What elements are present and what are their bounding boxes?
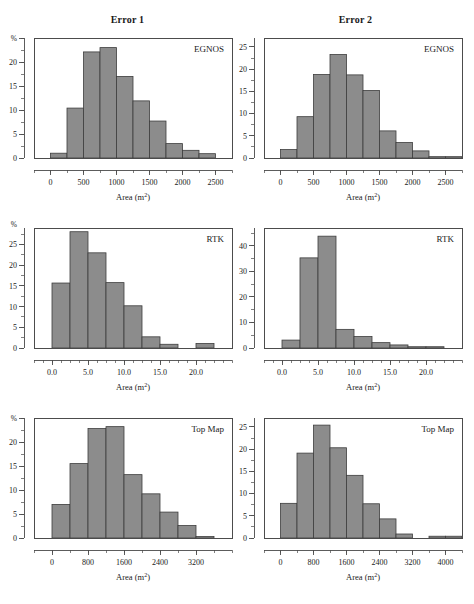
- y-tick-label: 10: [239, 109, 247, 118]
- x-tick-label: 2500: [438, 178, 454, 187]
- x-axis: 05001000150020002500: [264, 170, 462, 187]
- plot-frame: [264, 228, 462, 348]
- histogram-bar: [347, 75, 364, 158]
- histogram-bar: [178, 526, 196, 538]
- column-title-error-1: Error 1: [20, 14, 235, 25]
- x-tick-label: 0: [279, 178, 283, 187]
- histogram-bar: [160, 344, 178, 348]
- x-axis: 08001600240032004000: [264, 550, 462, 567]
- y-tick-label: 15: [239, 87, 247, 96]
- panel-label: Top Map: [191, 424, 224, 434]
- histogram-bar: [67, 108, 84, 158]
- y-tick-label: 15: [9, 282, 17, 291]
- histogram-bar: [363, 90, 380, 158]
- y-tick-label: 25: [239, 423, 247, 432]
- y-axis-percent-label: %: [11, 220, 17, 229]
- chart-svg: 0500100015002000250005101520%Area (m2)EG…: [0, 28, 244, 204]
- x-tick-label: 1500: [372, 178, 388, 187]
- y-axis: 010203040: [239, 228, 254, 353]
- histogram-bar: [196, 343, 214, 348]
- y-tick-label: 25: [9, 240, 17, 249]
- histogram-bar: [372, 343, 390, 348]
- bar-series: [52, 232, 214, 348]
- x-tick-label: 5.0: [83, 368, 93, 377]
- histogram-bar: [106, 283, 124, 348]
- panel-label: Top Map: [421, 424, 454, 434]
- y-tick-label: 10: [9, 106, 17, 115]
- x-tick-label: 2400: [372, 558, 388, 567]
- histogram-bar: [150, 121, 167, 158]
- x-axis-title: Area (m2): [346, 572, 380, 582]
- histogram-bar: [281, 503, 298, 538]
- y-tick-label: 0: [13, 344, 17, 353]
- histogram-bar: [124, 475, 142, 538]
- histogram-bar: [282, 340, 300, 348]
- bar-series: [281, 54, 463, 158]
- x-tick-label: 1500: [142, 178, 158, 187]
- x-tick-label: 0: [279, 558, 283, 567]
- y-tick-label: 40: [239, 242, 247, 251]
- y-tick-label: 30: [239, 267, 247, 276]
- x-tick-label: 5.0: [313, 368, 323, 377]
- panel-rtk-error1: 0.05.010.015.020.00510152025%Area (m2)RT…: [0, 218, 244, 394]
- histogram-bar: [347, 475, 364, 538]
- histogram-bar: [380, 131, 397, 158]
- x-axis-title: Area (m2): [116, 192, 150, 202]
- histogram-bar: [142, 494, 160, 538]
- x-tick-label: 2400: [152, 558, 168, 567]
- x-tick-label: 0.0: [277, 368, 287, 377]
- x-tick-label: 1000: [339, 178, 355, 187]
- x-axis-title: Area (m2): [116, 572, 150, 582]
- x-tick-label: 500: [308, 178, 320, 187]
- x-tick-label: 2500: [208, 178, 224, 187]
- x-tick-label: 15.0: [153, 368, 167, 377]
- panel-topmap-error1: 080016002400320005101520%Area (m2)Top Ma…: [0, 408, 244, 584]
- histogram-bar: [142, 337, 160, 348]
- histogram-bar: [396, 534, 413, 538]
- x-tick-label: 15.0: [383, 368, 397, 377]
- x-axis: 05001000150020002500: [34, 170, 232, 187]
- y-axis: 05101520%: [9, 414, 24, 543]
- histogram-bar: [88, 253, 106, 348]
- bar-series: [282, 236, 444, 348]
- histogram-bar: [314, 425, 331, 538]
- histogram-bar: [100, 48, 117, 158]
- x-tick-label: 10.0: [347, 368, 361, 377]
- x-tick-label: 2000: [405, 178, 421, 187]
- y-axis: 0510152025: [239, 38, 254, 163]
- histogram-bar: [380, 519, 397, 538]
- x-axis: 0800160024003200: [34, 550, 232, 567]
- histogram-bar: [52, 283, 70, 348]
- y-tick-label: 5: [243, 512, 247, 521]
- histogram-bar: [354, 337, 372, 348]
- histogram-bar: [363, 504, 380, 538]
- y-tick-label: 0: [243, 534, 247, 543]
- y-tick-label: 20: [239, 445, 247, 454]
- x-axis: 0.05.010.015.020.0: [264, 360, 462, 377]
- x-axis-title: Area (m2): [116, 382, 150, 392]
- y-tick-label: 5: [13, 510, 17, 519]
- panel-egnos-error1: 0500100015002000250005101520%Area (m2)EG…: [0, 28, 244, 204]
- histogram-bar: [88, 429, 106, 538]
- y-tick-label: 5: [243, 132, 247, 141]
- chart-svg: 0.05.010.015.020.00510152025%Area (m2)RT…: [0, 218, 244, 394]
- histogram-bar: [84, 52, 101, 158]
- y-tick-label: 20: [9, 438, 17, 447]
- x-axis-title: Area (m2): [346, 192, 380, 202]
- chart-svg: 0.05.010.015.020.0010203040Area (m2)RTK: [230, 218, 474, 394]
- y-axis-percent-label: %: [11, 414, 17, 423]
- chart-svg: 050010001500200025000510152025Area (m2)E…: [230, 28, 474, 204]
- histogram-bar: [133, 101, 150, 158]
- histogram-bar: [183, 150, 200, 158]
- x-tick-label: 20.0: [189, 368, 203, 377]
- histogram-bar: [330, 54, 347, 158]
- x-tick-label: 2000: [175, 178, 191, 187]
- histogram-bar: [199, 154, 216, 158]
- chart-svg: 080016002400320040000510152025Area (m2)T…: [230, 408, 474, 584]
- bar-series: [52, 427, 214, 538]
- y-axis: 0510152025%: [9, 220, 24, 353]
- column-title-error-2: Error 2: [248, 14, 463, 25]
- x-tick-label: 3200: [188, 558, 204, 567]
- x-tick-label: 0: [49, 178, 53, 187]
- x-tick-label: 0: [50, 558, 54, 567]
